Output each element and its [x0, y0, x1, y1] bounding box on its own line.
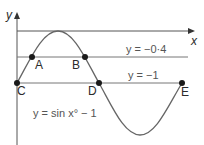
curve-label: y = sin x° − 1	[33, 107, 97, 119]
point-b-label: B	[72, 58, 80, 72]
point-a-label: A	[35, 58, 43, 72]
line-y-minus-1-label: y = −1	[128, 69, 159, 81]
y-axis-arrow-icon	[14, 12, 20, 19]
point-d	[96, 80, 102, 86]
line-y-minus-0-4-label: y = −0·4	[126, 43, 166, 55]
y-axis-label: y	[5, 8, 13, 22]
sine-graph-diagram: y x A B C D E y = −0·4 y = −1 y = sin x°…	[0, 0, 204, 145]
point-d-label: D	[88, 84, 97, 98]
x-axis-label: x	[190, 34, 198, 48]
point-e-label: E	[181, 85, 189, 99]
point-b	[82, 54, 88, 60]
point-c-label: C	[17, 84, 26, 98]
